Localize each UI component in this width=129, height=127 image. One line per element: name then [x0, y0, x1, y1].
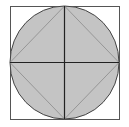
circle-square-diagram	[0, 0, 129, 127]
